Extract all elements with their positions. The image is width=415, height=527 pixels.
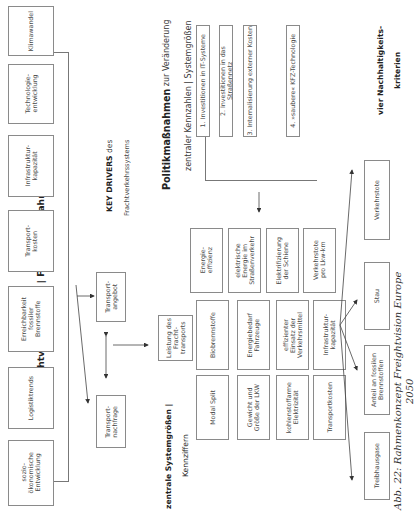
figure-caption: Abb. 22: Rahmenkonzept Freightvision Eur… [392, 260, 415, 522]
